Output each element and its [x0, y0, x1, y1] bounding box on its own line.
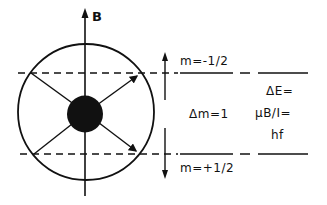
energy-eq-line1: ΔE=	[266, 85, 293, 97]
lower-level-label: m=+1/2	[180, 162, 234, 174]
b-field-arrow-icon	[82, 8, 89, 18]
energy-eq-line3: hf	[271, 129, 284, 141]
transition-arrows	[162, 52, 168, 179]
arrow-down-icon	[162, 170, 168, 179]
diagram-graphic	[0, 0, 327, 205]
energy-eq-line2: μB/I=	[255, 107, 291, 119]
transition-label: Δm=1	[189, 108, 229, 120]
upper-level-label: m=-1/2	[180, 55, 228, 67]
field-label: B	[92, 10, 102, 23]
nucleus	[67, 96, 103, 133]
diagram-canvas: B m=-1/2 m=+1/2 Δm=1 ΔE= μB/I= hf	[0, 0, 327, 205]
arrow-up-icon	[162, 52, 168, 61]
